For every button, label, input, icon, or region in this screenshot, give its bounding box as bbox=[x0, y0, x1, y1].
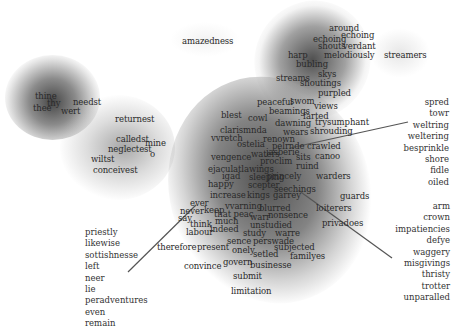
word-label: limitation bbox=[231, 287, 271, 296]
word-label: increase bbox=[210, 191, 246, 200]
word-label: submit bbox=[233, 272, 262, 281]
word-label: amazedness bbox=[182, 37, 233, 46]
word-label: returnest bbox=[115, 115, 154, 124]
list-word: impatiencies bbox=[395, 224, 450, 235]
word-label: views bbox=[314, 102, 338, 111]
word-label: wiltst bbox=[91, 155, 114, 164]
word-label: ostelia bbox=[237, 140, 265, 149]
list-word: weltring bbox=[404, 120, 449, 131]
list-word: trotter bbox=[395, 281, 450, 292]
word-label: familyes bbox=[290, 252, 325, 261]
word-label: govern bbox=[223, 258, 252, 267]
word-label: convince bbox=[184, 262, 221, 271]
list-word: spred bbox=[404, 97, 449, 108]
list-word: arm bbox=[395, 201, 450, 212]
word-label: neglectest bbox=[108, 145, 152, 154]
word-label: melodiously bbox=[324, 51, 374, 60]
list-word: waggery bbox=[395, 247, 450, 258]
word-label: garrey bbox=[273, 191, 301, 200]
list-word: likewise bbox=[85, 238, 148, 249]
list-word: weltering bbox=[404, 131, 449, 142]
list-word: unparalled bbox=[395, 292, 450, 303]
word-label: shoutings bbox=[300, 79, 341, 88]
list-word: even bbox=[85, 307, 148, 318]
embedding-map: thinethyneedsttheewertreturnestcalledstm… bbox=[0, 0, 470, 336]
list-word: neer bbox=[85, 273, 148, 284]
list-word: oiled bbox=[404, 177, 449, 188]
word-label: streamers bbox=[384, 51, 427, 60]
word-label: canoo bbox=[315, 152, 340, 161]
word-list-right-bottom: armcrownimpatienciesdefyewaggerymisgivin… bbox=[395, 201, 450, 304]
word-label: kings bbox=[247, 191, 270, 200]
list-word: left bbox=[85, 261, 148, 272]
list-word: crown bbox=[395, 212, 450, 223]
word-label: crawled bbox=[307, 142, 341, 151]
word-label: wert bbox=[61, 107, 80, 116]
word-label: o bbox=[150, 150, 155, 159]
word-label: bubling bbox=[296, 60, 328, 69]
list-word: peradventures bbox=[85, 295, 148, 306]
word-label: vengence bbox=[211, 153, 251, 162]
list-word: shore bbox=[404, 154, 449, 165]
list-word: defye bbox=[395, 235, 450, 246]
list-word: towr bbox=[404, 108, 449, 119]
word-label: shrouding bbox=[310, 127, 353, 136]
list-word: besprinkle bbox=[404, 143, 449, 154]
list-word: sottishnesse bbox=[85, 250, 148, 261]
word-label: loiterers bbox=[316, 204, 352, 213]
word-label: indeed bbox=[210, 225, 239, 234]
word-label: guards bbox=[340, 192, 369, 201]
word-label: conceivest bbox=[93, 166, 137, 175]
word-label: onely bbox=[232, 246, 255, 255]
word-label: warders bbox=[316, 172, 351, 181]
word-label: thee bbox=[33, 104, 52, 113]
word-label: present bbox=[197, 243, 229, 252]
word-label: blest bbox=[221, 111, 241, 120]
list-word: misgivings bbox=[395, 258, 450, 269]
list-word: lie bbox=[85, 284, 148, 295]
word-label: happy bbox=[208, 180, 234, 189]
word-label: calledst bbox=[116, 135, 149, 144]
word-label: swom bbox=[290, 97, 314, 106]
word-list-right-top: spredtowrweltringwelteringbesprinkleshor… bbox=[404, 97, 449, 188]
word-label: therefore bbox=[157, 243, 196, 252]
word-list-left-bottom: priestlylikewisesottishnesseleftneerliep… bbox=[85, 227, 148, 330]
list-word: thristy bbox=[395, 269, 450, 280]
word-label: ruind bbox=[296, 162, 319, 171]
word-label: purpled bbox=[318, 89, 351, 98]
list-word: priestly bbox=[85, 227, 148, 238]
word-label: privadoes bbox=[322, 219, 363, 228]
word-label: cowl bbox=[248, 114, 267, 123]
word-label: businesse bbox=[250, 261, 291, 270]
list-word: remain bbox=[85, 318, 148, 329]
word-label: nonsence bbox=[268, 211, 308, 220]
list-word: fidle bbox=[404, 165, 449, 176]
